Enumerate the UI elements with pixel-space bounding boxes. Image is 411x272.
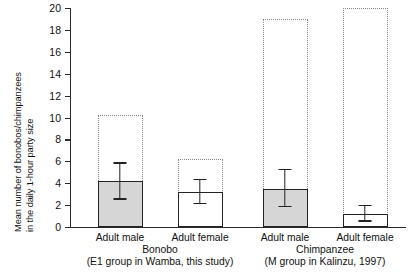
y-tick-mark xyxy=(65,52,70,53)
error-bar-cap-upper xyxy=(359,205,372,206)
plot-area: 02468101214161820 Adult maleAdult female… xyxy=(70,8,406,228)
error-bar-cap-lower xyxy=(359,220,372,221)
y-tick-mark xyxy=(65,96,70,97)
error-bar xyxy=(119,164,120,200)
max-range-box xyxy=(343,8,388,227)
y-tick-mark xyxy=(65,30,70,31)
y-tick-mark xyxy=(65,139,70,140)
group-caption-2: Chimpanzee(M group in Kalinzu, 1997) xyxy=(225,244,411,267)
error-bar xyxy=(284,170,285,207)
y-tick-label: 0 xyxy=(55,222,61,233)
x-tick-label-2: Adult female xyxy=(160,232,240,243)
y-axis-title-line-2: in the daily 1-hour party size xyxy=(25,119,35,232)
y-tick-label: 6 xyxy=(55,156,61,167)
y-tick-mark xyxy=(65,183,70,184)
x-tick-label-4: Adult female xyxy=(325,232,405,243)
bar-chart-figure: Mean number of bonobos/chimpanzees in th… xyxy=(0,0,411,272)
y-tick-label: 14 xyxy=(49,68,61,79)
y-axis-title: Mean number of bonobos/chimpanzees in th… xyxy=(0,0,36,240)
y-tick-mark xyxy=(65,161,70,162)
y-tick-mark xyxy=(65,74,70,75)
x-tick-label-3: Adult male xyxy=(245,232,325,243)
y-tick-label: 16 xyxy=(49,47,61,58)
x-axis-line xyxy=(70,227,406,228)
bar-group-3 xyxy=(263,8,308,227)
error-bar-cap-lower xyxy=(279,206,292,207)
bar-group-2 xyxy=(178,8,223,227)
y-tick-mark xyxy=(65,8,70,9)
x-tick-label-1: Adult male xyxy=(80,232,160,243)
y-tick-label: 18 xyxy=(49,25,61,36)
y-tick-label: 20 xyxy=(49,3,61,14)
y-tick-mark xyxy=(65,118,70,119)
error-bar-cap-lower xyxy=(194,203,207,204)
y-tick-mark xyxy=(65,227,70,228)
bar-group-4 xyxy=(343,8,388,227)
error-bar-cap-upper xyxy=(114,162,127,163)
y-axis-line xyxy=(70,8,71,228)
bar-group-1 xyxy=(98,8,143,227)
error-bar-cap-upper xyxy=(194,179,207,180)
error-bar-cap-lower xyxy=(114,198,127,199)
group-subtitle: (M group in Kalinzu, 1997) xyxy=(225,256,411,267)
error-bar xyxy=(199,180,200,204)
y-tick-label: 10 xyxy=(49,112,61,123)
y-tick-mark xyxy=(65,205,70,206)
y-tick-label: 2 xyxy=(55,200,61,211)
y-tick-label: 4 xyxy=(55,178,61,189)
error-bar-cap-upper xyxy=(279,169,292,170)
y-tick-label: 8 xyxy=(55,134,61,145)
y-axis-title-line-1: Mean number of bonobos/chimpanzees xyxy=(13,72,23,232)
group-name: Chimpanzee xyxy=(225,244,411,255)
y-tick-label: 12 xyxy=(49,90,61,101)
